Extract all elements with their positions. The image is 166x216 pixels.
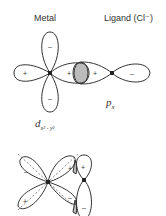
sign-metal-up: – <box>48 43 52 50</box>
metal-lobe-down <box>42 73 59 112</box>
orbital-overlap-diagram: – – + + + – – + + – + – <box>0 0 166 216</box>
sign-ligand-left: + <box>93 70 97 77</box>
sign-ligand-up: + <box>81 164 85 171</box>
overlap-region-lower <box>73 200 77 214</box>
sign-metal-right: + <box>67 70 71 77</box>
overlap-region-upper <box>73 160 77 174</box>
ligand-nucleus-pi <box>82 178 86 182</box>
sign-metal-ll: + <box>23 198 27 205</box>
overlap-region <box>74 62 88 84</box>
ligand-nucleus <box>110 71 114 75</box>
metal-lobe-up <box>42 32 59 73</box>
sign-ligand-down: – <box>82 204 86 211</box>
sign-metal-lr: – <box>68 194 72 201</box>
sign-ligand-right: – <box>130 70 134 77</box>
metal-nucleus-pi <box>46 180 50 184</box>
sign-metal-ur: + <box>68 165 72 172</box>
metal-lobe-left <box>14 65 50 82</box>
sign-metal-left: + <box>23 70 27 77</box>
sign-metal-ul: – <box>24 168 28 175</box>
metal-nucleus <box>48 71 52 75</box>
sign-metal-down: – <box>48 95 52 102</box>
metal-lobe-lr <box>48 182 77 204</box>
